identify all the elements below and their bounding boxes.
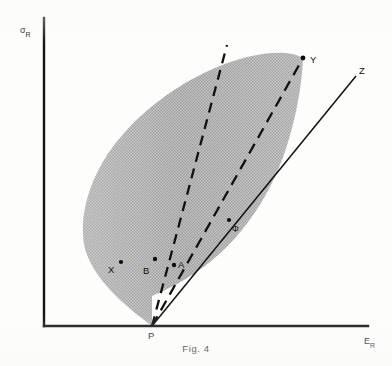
figure-canvas: σR ER X B A Φ Y Z P Fig. 4: [0, 0, 392, 366]
y-axis-label: σR: [20, 25, 31, 38]
point-label-b: B: [143, 265, 150, 276]
point-dot-a: [172, 263, 176, 267]
figure-container: σR ER X B A Φ Y Z P Fig. 4: [0, 0, 392, 366]
point-label-x: X: [108, 264, 115, 275]
x-axis-label: ER: [364, 336, 375, 349]
point-dot-b: [153, 257, 157, 261]
shaded-region-group: [83, 53, 303, 326]
feasible-region-shading-overlay: [83, 53, 303, 326]
point-dot-y: [301, 56, 306, 61]
x-axis-label-subscript: R: [370, 342, 375, 349]
point-label-p: P: [148, 330, 155, 341]
point-label-phi: Φ: [232, 224, 239, 234]
point-label-a: A: [178, 259, 185, 270]
point-dot-x: [119, 260, 123, 264]
figure-caption: Fig. 4: [182, 343, 209, 354]
point-label-z: Z: [359, 65, 365, 76]
point-dot-phi: [227, 218, 231, 222]
point-label-y: Y: [310, 54, 317, 65]
y-axis-label-subscript: R: [26, 31, 31, 38]
